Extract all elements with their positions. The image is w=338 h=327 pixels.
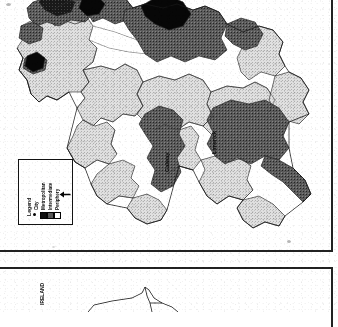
legend-label-metropolitan: Metropolitan [41, 182, 46, 210]
scan-smudge [52, 246, 55, 248]
legend-swatch-intermediate [47, 212, 54, 219]
region-metropolitan-cork [207, 100, 289, 164]
map-legend: Legend City Metropolitan Intermediate Pe… [18, 159, 73, 225]
region-periphery-sepeninsula [237, 196, 285, 228]
pointer-arrow-icon [59, 190, 71, 199]
second-figure-outline [0, 267, 332, 312]
legend-swatch-city [33, 213, 36, 216]
legend-label-city: City [34, 201, 39, 210]
region-intermediate-eastlobe [225, 18, 263, 50]
map-label-limerick: Limerick [211, 131, 217, 154]
scan-smudge [6, 3, 11, 6]
map-label-galway: Galway [164, 153, 170, 172]
map-label-dublin: Dublin [166, 1, 172, 18]
legend-title: Legend [26, 198, 32, 216]
region-metropolitan-galway [139, 106, 185, 192]
choropleth-map-panel: Dublin Galway Limerick Legend City Metro… [0, 0, 333, 252]
region-periphery-midwest [77, 64, 143, 126]
legend-swatch-periphery [54, 212, 61, 219]
scan-smudge [287, 240, 291, 243]
figure-two-label: IRELAND [39, 283, 45, 305]
legend-swatch-metropolitan [40, 212, 47, 219]
legend-label-intermediate: Intermediate [48, 183, 53, 210]
